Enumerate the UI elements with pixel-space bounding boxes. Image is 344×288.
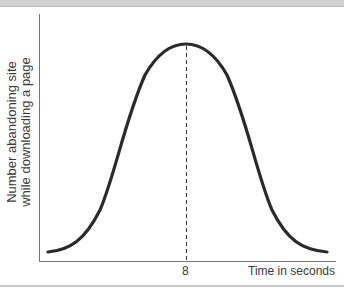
y-axis-label: Number abandoning site while downloading…	[5, 12, 33, 252]
x-axis-label: Time in seconds	[248, 264, 335, 278]
y-axis-label-line1: Number abandoning site	[5, 12, 19, 252]
bell-curve-chart	[0, 0, 344, 288]
bottom-rule	[0, 285, 344, 287]
y-axis-label-line2: while downloading a page	[19, 12, 33, 252]
bell-curve	[48, 44, 327, 252]
x-tick-8: 8	[182, 264, 189, 278]
